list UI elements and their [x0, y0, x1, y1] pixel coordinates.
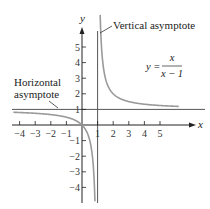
x-tick-label: −3 [30, 128, 41, 139]
horizontal-asymptote-label-line1: Horizontal [14, 76, 61, 88]
y-tick-label: 5 [75, 42, 80, 53]
y-tick-label: 1 [75, 104, 80, 115]
y-tick-label: −2 [69, 151, 80, 162]
y-tick-label: 4 [75, 57, 80, 68]
y-tick-label: −4 [69, 182, 80, 193]
x-axis-arrow-icon [189, 123, 196, 128]
y-tick-label: −1 [69, 135, 80, 146]
vertical-asymptote-pointer [100, 26, 112, 33]
x-tick-label: 4 [142, 128, 147, 139]
x-tick-label: −4 [14, 128, 25, 139]
curve-left-branch [13, 112, 95, 201]
x-tick-label: 1 [95, 128, 100, 139]
formula-lhs: y = [145, 61, 160, 72]
chart: x y −4−3−2−112345 −4−3−2−112345 Horizont… [0, 0, 210, 209]
vertical-asymptote-label: Vertical asymptote [113, 19, 195, 31]
y-axis-arrow-icon [80, 27, 85, 34]
x-tick-label: 3 [126, 128, 131, 139]
x-axis-label: x [197, 118, 203, 130]
function-formula: y = x x − 1 [145, 52, 183, 79]
formula-denominator: x − 1 [160, 68, 183, 79]
x-tick-label: 2 [111, 128, 116, 139]
y-axis-label: y [79, 12, 85, 24]
x-tick-label: 5 [158, 128, 163, 139]
x-tick-label: −2 [45, 128, 56, 139]
horizontal-asymptote-pointer [49, 101, 58, 108]
formula-numerator: x [169, 52, 175, 63]
y-ticks: −4−3−2−112345 [69, 42, 86, 193]
y-tick-label: 3 [75, 73, 80, 84]
y-tick-label: 2 [75, 88, 80, 99]
y-tick-label: −3 [69, 166, 80, 177]
horizontal-asymptote-label-line2: asymptote [14, 88, 59, 100]
